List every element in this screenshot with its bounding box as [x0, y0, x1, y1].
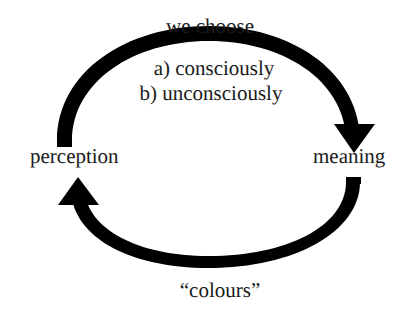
node-label-perception: perception [30, 146, 119, 167]
bottom-arc-tail [346, 177, 361, 184]
bottom-arc-arrow [58, 177, 361, 268]
option-a-label: a) consciously [154, 58, 275, 79]
bottom-arc-body [71, 182, 360, 268]
diagram-canvas: we choose a) consciously b) unconsciousl… [0, 0, 417, 321]
node-label-meaning: meaning [313, 146, 385, 167]
option-b-label: b) unconsciously [140, 83, 283, 104]
bottom-caption-label: “colours” [180, 280, 260, 301]
top-heading-label: we choose [166, 16, 254, 37]
bottom-arc-arrowhead-icon [58, 177, 99, 205]
